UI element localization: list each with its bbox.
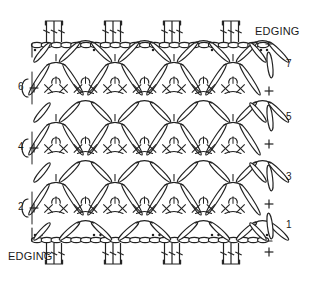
edging-dot-top xyxy=(34,49,37,52)
anchor-cross-right xyxy=(59,84,67,92)
anchor-cross-right xyxy=(236,204,244,212)
anchor-cross-right xyxy=(118,84,126,92)
arch-leg-right xyxy=(238,63,262,97)
low-arch-leg-left xyxy=(117,160,140,183)
arch-leg-left xyxy=(27,63,51,97)
row-number-left-6: 6 xyxy=(18,81,24,92)
arch-leg-left xyxy=(27,183,51,217)
edging-label-bottom: EDGING xyxy=(8,250,53,262)
low-arch-leg-left xyxy=(58,100,81,123)
low-arch-leg-left xyxy=(117,100,140,123)
edging-treble-bottom xyxy=(220,243,226,264)
anchor-cross-left xyxy=(221,204,229,212)
anchor-cap xyxy=(225,152,241,154)
anchor-chain-loop xyxy=(111,136,120,143)
edging-treble-top xyxy=(51,21,57,42)
edging-treble-top xyxy=(228,21,234,42)
anchor-cap xyxy=(107,92,123,94)
edging-dot-top xyxy=(266,49,269,52)
anchor-chain-loop xyxy=(111,76,120,83)
row-number-left-4: 4 xyxy=(18,141,24,152)
edging-treble-top xyxy=(161,21,167,42)
edging-treble-bottom xyxy=(169,243,175,264)
edging-treble-top xyxy=(43,21,49,42)
low-arch-leg-edge-left xyxy=(32,161,52,183)
anchor-chain-loop xyxy=(111,196,120,203)
edging-treble-bottom xyxy=(110,243,116,264)
anchor-cross-left xyxy=(44,144,52,152)
edging-dot-bottom xyxy=(266,234,269,237)
edging-treble-top xyxy=(110,21,116,42)
low-arch-leg-left xyxy=(176,100,199,123)
low-arch-leg-left xyxy=(176,160,199,183)
anchor-cap xyxy=(166,212,182,214)
low-arch-leg-edge-right xyxy=(248,101,268,123)
anchor-cap xyxy=(107,212,123,214)
edging-treble-bottom xyxy=(117,243,123,264)
low-arch-leg-right xyxy=(149,160,172,183)
edging-treble-bottom xyxy=(235,243,241,264)
anchor-cap xyxy=(48,92,64,94)
edging-treble-bottom xyxy=(161,243,167,264)
anchor-cross-right xyxy=(59,204,67,212)
row-number-right-3: 3 xyxy=(286,171,292,182)
anchor-cross-right xyxy=(118,204,126,212)
edging-treble-bottom xyxy=(58,243,64,264)
row-number-left-2: 2 xyxy=(18,201,24,212)
anchor-cross-left xyxy=(103,144,111,152)
anchor-cap xyxy=(48,152,64,154)
low-arch-leg-left xyxy=(58,160,81,183)
anchor-chain-loop xyxy=(229,196,238,203)
row-number-right-7: 7 xyxy=(286,58,292,69)
valley-chain-loop xyxy=(140,76,149,83)
crochet-diagram-stage: EDGING EDGING 6 4 2 7 5 3 1 xyxy=(0,0,311,282)
anchor-cross-right xyxy=(118,144,126,152)
anchor-cross-left xyxy=(162,204,170,212)
anchor-cross-left xyxy=(103,204,111,212)
edging-treble-top xyxy=(102,21,108,42)
anchor-cap xyxy=(225,92,241,94)
edging-treble-top xyxy=(117,21,123,42)
arch-leg-left xyxy=(27,123,51,157)
low-arch-leg-edge-left xyxy=(32,101,52,123)
foundation-chain-top xyxy=(258,42,269,47)
anchor-cross-left xyxy=(221,144,229,152)
valley-chain-loop xyxy=(81,136,90,143)
anchor-cap xyxy=(107,152,123,154)
anchor-cross-right xyxy=(177,144,185,152)
low-arch-leg-edge-right xyxy=(248,161,268,183)
edging-label-top: EDGING xyxy=(255,25,300,37)
anchor-cap xyxy=(166,92,182,94)
turning-chain-right xyxy=(266,52,274,78)
edging-dot-bottom xyxy=(93,234,96,237)
valley-chain-loop xyxy=(199,136,208,143)
edging-treble-bottom xyxy=(102,243,108,264)
edging-treble-bottom xyxy=(176,243,182,264)
arch-leg-right xyxy=(238,183,262,217)
anchor-chain-loop xyxy=(170,196,179,203)
selvedge-join-plus xyxy=(265,140,274,149)
anchor-cross-right xyxy=(177,84,185,92)
anchor-cap xyxy=(48,212,64,214)
anchor-chain-loop xyxy=(170,76,179,83)
anchor-chain-loop xyxy=(52,136,61,143)
anchor-cross-left xyxy=(44,84,52,92)
anchor-cap xyxy=(166,152,182,154)
valley-chain-loop xyxy=(81,76,90,83)
crochet-chart-svg xyxy=(0,0,311,282)
anchor-cross-left xyxy=(221,84,229,92)
anchor-cap xyxy=(225,212,241,214)
anchor-chain-loop xyxy=(52,76,61,83)
valley-chain-loop xyxy=(140,136,149,143)
selvedge-join-plus xyxy=(265,248,274,257)
anchor-cross-right xyxy=(236,144,244,152)
edging-treble-top xyxy=(220,21,226,42)
row-number-right-1: 1 xyxy=(286,219,292,230)
edging-dot-bottom xyxy=(211,234,214,237)
valley-chain-loop xyxy=(81,196,90,203)
selvedge-join-plus xyxy=(265,87,274,96)
row-number-right-5: 5 xyxy=(286,111,292,122)
anchor-cross-right xyxy=(177,204,185,212)
edging-dot-bottom xyxy=(152,234,155,237)
anchor-cross-left xyxy=(44,204,52,212)
